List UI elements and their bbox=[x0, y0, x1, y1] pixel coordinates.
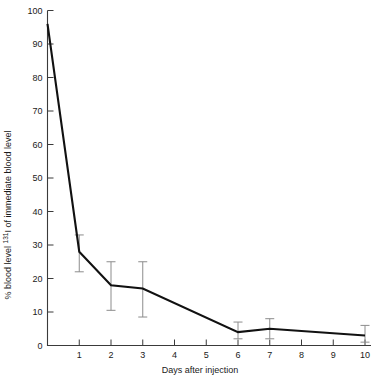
y-tick-label: 100 bbox=[27, 6, 42, 16]
y-tick-label: 80 bbox=[32, 73, 42, 83]
y-tick-label: 10 bbox=[32, 307, 42, 317]
y-axis-title-suffix: of immediate blood level bbox=[3, 131, 13, 231]
y-axis-ticks: 0102030405060708090100 bbox=[27, 6, 53, 351]
y-axis-title: % blood level 131I of immediate blood le… bbox=[2, 131, 13, 300]
x-axis-ticks: 12345678910 bbox=[77, 340, 370, 360]
y-tick-label: 60 bbox=[32, 140, 42, 150]
y-tick-label: 90 bbox=[32, 39, 42, 49]
x-tick-label: 1 bbox=[77, 350, 82, 360]
x-axis-title: Days after injection bbox=[162, 365, 239, 375]
x-tick-label: 3 bbox=[140, 350, 145, 360]
y-axis-title-prefix: % blood level bbox=[3, 243, 13, 299]
y-tick-label: 20 bbox=[32, 274, 42, 284]
x-tick-label: 2 bbox=[108, 350, 113, 360]
x-tick-label: 9 bbox=[331, 350, 336, 360]
svg-text:% blood level 131I of immediat: % blood level 131I of immediate blood le… bbox=[2, 131, 13, 300]
data-series-line bbox=[48, 24, 366, 336]
y-axis-title-superscript: 131 bbox=[2, 232, 9, 243]
chart-plot-area: 0102030405060708090100 12345678910 Days … bbox=[0, 0, 374, 381]
y-tick-label: 50 bbox=[32, 173, 42, 183]
chart-figure: 0102030405060708090100 12345678910 Days … bbox=[0, 0, 374, 381]
y-tick-label: 0 bbox=[37, 341, 42, 351]
error-bars bbox=[75, 235, 370, 342]
y-tick-label: 70 bbox=[32, 106, 42, 116]
y-tick-label: 40 bbox=[32, 207, 42, 217]
y-tick-label: 30 bbox=[32, 240, 42, 250]
x-tick-label: 5 bbox=[204, 350, 209, 360]
x-tick-label: 6 bbox=[235, 350, 240, 360]
x-tick-label: 8 bbox=[299, 350, 304, 360]
x-tick-label: 10 bbox=[360, 350, 370, 360]
x-tick-label: 7 bbox=[267, 350, 272, 360]
axis-lines bbox=[48, 11, 372, 346]
x-tick-label: 4 bbox=[172, 350, 177, 360]
